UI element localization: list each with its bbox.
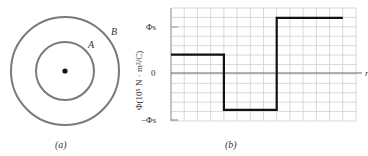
grid <box>171 8 356 121</box>
label-a: A <box>87 39 95 50</box>
panel-a-circles: B A (a) <box>0 0 130 156</box>
label-b: B <box>111 26 117 37</box>
ytick-bottom: −Φs <box>141 115 157 125</box>
y-axis-label: Φ(10⁵ N · m²/C) <box>134 51 144 110</box>
flux-step-line <box>171 18 343 110</box>
ytick-top: Φs <box>146 22 157 32</box>
center-point-charge <box>62 68 67 73</box>
flux-step-chart: Φs 0 −Φs r Φ(10⁵ N · m²/C) (b) <box>130 0 368 156</box>
ytick-zero: 0 <box>151 68 156 78</box>
panel-b-chart: Φs 0 −Φs r Φ(10⁵ N · m²/C) (b) <box>130 0 368 156</box>
caption-b: (b) <box>225 139 237 151</box>
concentric-circles-figure: B A (a) <box>0 0 130 156</box>
caption-a: (a) <box>55 139 67 151</box>
